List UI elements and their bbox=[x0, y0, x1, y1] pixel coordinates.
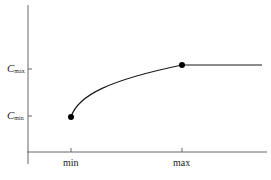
x-label-max: max bbox=[173, 158, 190, 168]
point-min bbox=[68, 114, 74, 120]
chart-canvas bbox=[0, 0, 271, 180]
y-label-cmin: Cmin bbox=[7, 110, 24, 121]
data-curve bbox=[71, 65, 262, 117]
point-max bbox=[179, 62, 185, 68]
x-label-min: min bbox=[63, 158, 79, 168]
y-label-cmax: Cmax bbox=[7, 63, 25, 74]
